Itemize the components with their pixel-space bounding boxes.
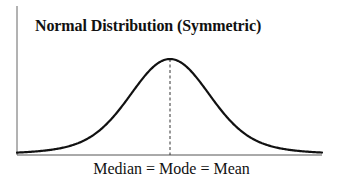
normal-distribution-figure: Normal Distribution (Symmetric) Median =…: [0, 0, 343, 181]
x-axis-label: Median = Mode = Mean: [0, 160, 343, 178]
chart-title: Normal Distribution (Symmetric): [35, 17, 261, 35]
median-mode-mean-label: Median = Mode = Mean: [93, 160, 250, 178]
